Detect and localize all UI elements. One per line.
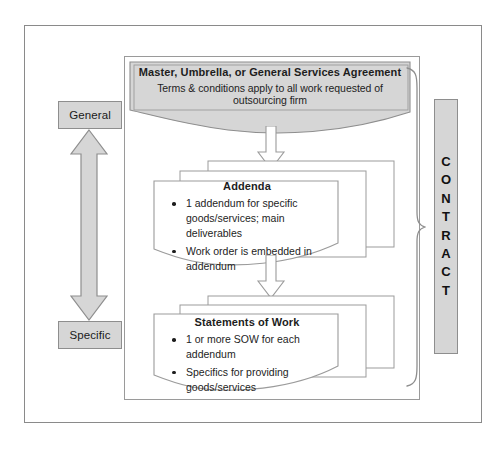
document-statements-of-work-text: Statements of Work 1 or more SOW for eac… xyxy=(158,316,336,398)
document-master-agreement-title: Master, Umbrella, or General Services Ag… xyxy=(134,66,406,78)
scale-label-general: General xyxy=(69,109,111,121)
document-master-agreement-subtitle: Terms & conditions apply to all work req… xyxy=(134,82,406,106)
document-addenda-title: Addenda xyxy=(158,180,336,192)
list-item: Work order is embedded in addendum xyxy=(172,244,336,274)
document-addenda-text: Addenda 1 addendum for specific goods/se… xyxy=(158,180,336,277)
contract-letter: A xyxy=(441,245,450,263)
contract-letter: O xyxy=(441,171,451,189)
arrow-down-addenda-to-sow-icon xyxy=(256,255,286,299)
list-item: 1 or more SOW for each addendum xyxy=(172,332,336,362)
contract-letter: C xyxy=(441,263,450,281)
contract-curly-brace-icon xyxy=(404,66,426,388)
list-item: 1 addendum for specific goods/services; … xyxy=(172,196,336,241)
document-addenda-bullets: 1 addendum for specific goods/services; … xyxy=(158,196,336,274)
general-to-specific-double-arrow-icon xyxy=(66,128,112,322)
diagram-canvas: General Specific Master, Umbrella, or Ge… xyxy=(0,0,504,449)
list-item: Specifics for providing goods/services xyxy=(172,365,336,395)
contract-label-letters: C O N T R A C T xyxy=(441,153,451,301)
contract-letter: T xyxy=(442,208,450,226)
scale-label-specific: Specific xyxy=(69,329,110,341)
document-statements-of-work-title: Statements of Work xyxy=(158,316,336,328)
scale-box-general: General xyxy=(58,101,122,129)
document-master-agreement-text: Master, Umbrella, or General Services Ag… xyxy=(134,66,406,106)
contract-letter: T xyxy=(442,282,450,300)
contract-letter: N xyxy=(441,190,450,208)
contract-letter: C xyxy=(441,153,450,171)
scale-box-specific: Specific xyxy=(58,321,122,349)
document-statements-of-work-bullets: 1 or more SOW for each addendum Specific… xyxy=(158,332,336,395)
contract-label-box: C O N T R A C T xyxy=(434,99,458,354)
contract-letter: R xyxy=(441,227,450,245)
